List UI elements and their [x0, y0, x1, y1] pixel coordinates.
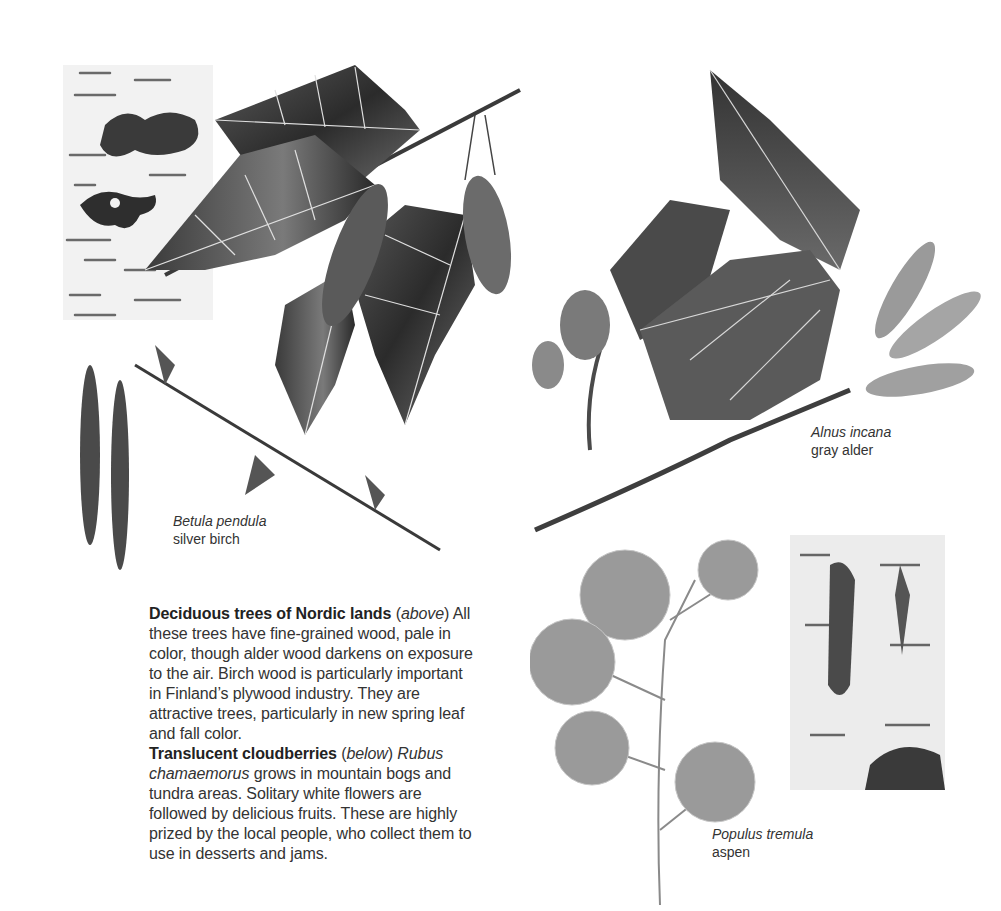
- birch-illustration: [55, 55, 535, 585]
- paragraph-body: All these trees have fine-grained wood, …: [149, 605, 473, 742]
- caption-birch: Betula pendula silver birch: [173, 512, 266, 548]
- paragraph-ref: above: [401, 605, 444, 622]
- alder-illustration: [530, 60, 990, 540]
- paragraph-cloudberries: Translucent cloudberries (below) Rubus c…: [149, 744, 479, 864]
- caption-birch-scientific: Betula pendula: [173, 512, 266, 530]
- paragraph-deciduous-trees: Deciduous trees of Nordic lands (above) …: [149, 604, 479, 744]
- caption-birch-common: silver birch: [173, 530, 266, 548]
- aspen-bark-icon: [790, 535, 945, 790]
- paragraph-ref: below: [346, 745, 387, 762]
- caption-aspen-common: aspen: [712, 843, 813, 861]
- caption-alder-scientific: Alnus incana: [811, 423, 891, 441]
- caption-alder-common: gray alder: [811, 441, 891, 459]
- caption-aspen-scientific: Populus tremula: [712, 825, 813, 843]
- paragraph-heading: Translucent cloudberries: [149, 745, 337, 762]
- caption-alder: Alnus incana gray alder: [811, 423, 891, 459]
- birch-bark-icon: [63, 65, 213, 320]
- caption-aspen: Populus tremula aspen: [712, 825, 813, 861]
- paragraph-heading: Deciduous trees of Nordic lands: [149, 605, 391, 622]
